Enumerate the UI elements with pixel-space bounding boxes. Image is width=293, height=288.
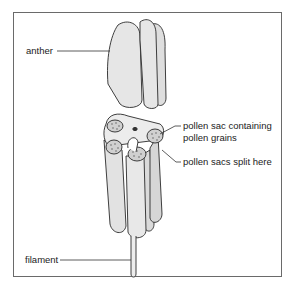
label-pollen-sac-line1: pollen sac containing [183,120,272,131]
label-pollen-sacs-split: pollen sacs split here [183,156,272,167]
label-pollen-sac-line2: pollen grains [183,132,237,143]
anther-closed [107,20,166,109]
stamen-illustration [0,0,293,288]
label-anther: anther [26,45,53,56]
filament-stalk [131,236,136,277]
anther-split [104,114,164,238]
label-filament: filament [25,254,58,265]
